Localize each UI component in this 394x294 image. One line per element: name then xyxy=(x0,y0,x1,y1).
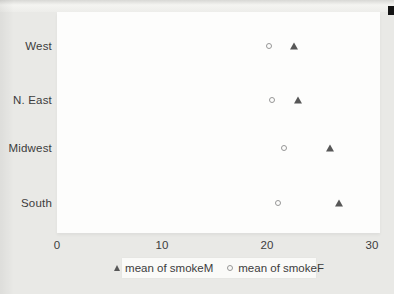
y-axis-label-midwest: Midwest xyxy=(0,141,52,155)
x-tick-label-0: 0 xyxy=(54,239,60,251)
scanned-chart-page: West N. East Midwest South 0 10 20 30 me… xyxy=(0,0,394,294)
y-axis-label-neast: N. East xyxy=(0,93,52,107)
legend-item-smokeM: mean of smokeM xyxy=(114,262,213,274)
x-tick-label-20: 20 xyxy=(261,239,274,251)
marker-smokeM-south xyxy=(335,200,343,207)
legend-label-smokeF: mean of smokeF xyxy=(238,262,324,274)
legend: mean of smokeM mean of smokeF xyxy=(122,258,316,278)
y-axis-label-south: South xyxy=(0,196,52,210)
marker-smokeF-n-east xyxy=(269,97,275,103)
marker-smokeF-south xyxy=(275,200,281,206)
scan-artifact-mark xyxy=(388,6,394,15)
marker-smokeF-west xyxy=(266,43,272,49)
marker-smokeM-midwest xyxy=(326,145,334,152)
y-axis-label-west: West xyxy=(0,39,52,53)
open-circle-marker-icon xyxy=(227,265,233,271)
marker-smokeM-west xyxy=(290,43,298,50)
marker-smokeF-midwest xyxy=(281,145,287,151)
x-tick-label-30: 30 xyxy=(366,239,379,251)
scan-top-band xyxy=(0,0,394,12)
filled-triangle-marker-icon xyxy=(114,265,120,271)
x-tick-label-10: 10 xyxy=(156,239,169,251)
legend-label-smokeM: mean of smokeM xyxy=(125,262,213,274)
plot-area xyxy=(57,12,380,233)
legend-item-smokeF: mean of smokeF xyxy=(227,262,324,274)
marker-smokeM-n-east xyxy=(294,97,302,104)
